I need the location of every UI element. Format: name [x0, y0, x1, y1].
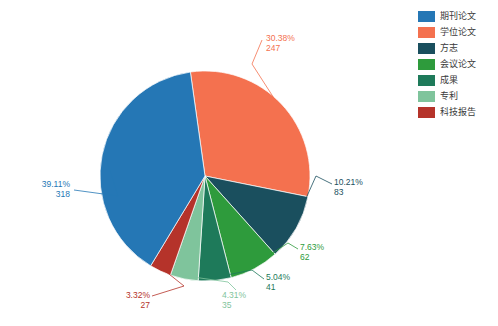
legend-swatch-chronicle	[418, 43, 435, 54]
data-label-journal: 39.11% 318	[12, 180, 70, 199]
legend-swatch-journal	[418, 11, 435, 22]
data-label-patent: 4.31% 35	[222, 291, 246, 310]
legend-swatch-patent	[418, 91, 435, 102]
data-label-thesis-count: 247	[266, 44, 295, 54]
legend-item-techreport[interactable]: 科技报告	[418, 105, 476, 119]
data-label-techreport: 3.32% 27	[104, 291, 150, 310]
pie-chart-figure: 期刊论文 学位论文 方志 会议论文 成果 专利 科技报告 39.11% 318	[0, 0, 498, 326]
legend-label-thesis: 学位论文	[440, 27, 476, 38]
data-label-chronicle: 10.21% 83	[334, 178, 363, 197]
legend-swatch-conference	[418, 59, 435, 70]
data-label-chronicle-count: 83	[334, 188, 363, 198]
data-label-achievement: 5.04% 41	[266, 273, 290, 292]
data-label-thesis: 30.38% 247	[266, 34, 295, 53]
legend-item-thesis[interactable]: 学位论文	[418, 25, 476, 39]
legend-item-conference[interactable]: 会议论文	[418, 57, 476, 71]
data-label-conference: 7.63% 62	[300, 243, 324, 262]
legend-swatch-techreport	[418, 107, 435, 118]
legend-label-chronicle: 方志	[440, 43, 458, 54]
data-label-achievement-count: 41	[266, 283, 290, 293]
legend-label-journal: 期刊论文	[440, 11, 476, 22]
legend-swatch-achievement	[418, 75, 435, 86]
data-label-journal-count: 318	[12, 190, 70, 200]
legend-swatch-thesis	[418, 27, 435, 38]
chart-legend: 期刊论文 学位论文 方志 会议论文 成果 专利 科技报告	[418, 9, 476, 119]
data-label-conference-count: 62	[300, 253, 324, 263]
legend-label-conference: 会议论文	[440, 59, 476, 70]
legend-label-patent: 专利	[440, 91, 458, 102]
data-label-techreport-count: 27	[104, 301, 150, 311]
legend-label-achievement: 成果	[440, 75, 458, 86]
legend-label-techreport: 科技报告	[440, 107, 476, 118]
data-label-patent-count: 35	[222, 301, 246, 311]
legend-item-achievement[interactable]: 成果	[418, 73, 476, 87]
legend-item-patent[interactable]: 专利	[418, 89, 476, 103]
legend-item-chronicle[interactable]: 方志	[418, 41, 476, 55]
legend-item-journal[interactable]: 期刊论文	[418, 9, 476, 23]
